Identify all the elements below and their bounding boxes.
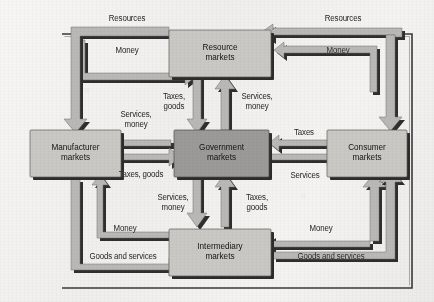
label-top-right-money: Money [291,46,385,56]
box-label-government-markets: Governmentmarkets [176,142,266,162]
label-bottom-left-goods-services: Goods and services [71,252,174,262]
arrow-taxes-consumer-to-government [269,135,333,154]
diagram-stage: .ar { fill:#b9b8b6; stroke:#6e6e6c; stro… [0,0,434,302]
label-center-bottom-services-money: Services, money [149,193,198,212]
label-top-left-money: Money [80,46,174,56]
arrow-money-consumer-to-intermediary [261,173,389,256]
label-right-taxes: Taxes [284,128,323,138]
label-top-right-resources: Resources [291,14,394,24]
box-label-manufacturer-markets: Manufacturermarkets [32,142,118,162]
label-bottom-left-money: Money [92,224,158,234]
label-bottom-right-money: Money [288,224,354,234]
label-left-taxes-goods: Taxes, goods [108,170,174,180]
label-bottom-right-goods-services: Goods and services [279,252,382,262]
box-label-resource-markets: Resourcemarkets [172,42,269,62]
box-label-consumer-markets: Consumermarkets [329,142,405,162]
label-center-top-services-money: Services, money [233,92,282,111]
box-label-intermediary-markets: Intermediarymarkets [172,241,269,261]
arrow-resources-consumer-to-resource [261,24,405,44]
label-center-bottom-taxes-goods: Taxes, goods [234,193,279,212]
label-top-left-resources: Resources [75,14,178,24]
label-right-services: Services [282,171,329,181]
label-left-services-money: Services, money [112,110,161,129]
label-center-top-taxes-goods: Taxes, goods [151,92,196,111]
